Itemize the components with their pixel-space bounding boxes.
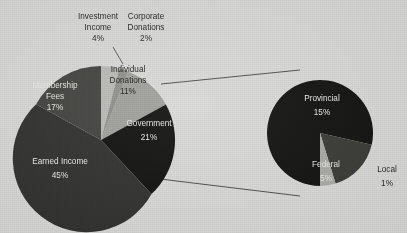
label-local: Local 1% bbox=[377, 165, 397, 188]
label-membership-fees-line1: Membership bbox=[32, 81, 77, 90]
label-corporate-donations-value: 2% bbox=[140, 34, 152, 43]
label-investment-income-line2: Income bbox=[85, 23, 112, 32]
label-local-value: 1% bbox=[381, 179, 393, 188]
label-investment-income: Investment Income 4% bbox=[78, 12, 119, 43]
connector-line-bottom bbox=[160, 179, 300, 196]
main-pie bbox=[13, 66, 175, 232]
label-government-line1: Government bbox=[126, 119, 172, 128]
label-earned-income-value: 45% bbox=[52, 171, 68, 180]
label-individual-donations-line2: Donations bbox=[110, 76, 147, 85]
label-earned-income-line1: Earned Income bbox=[32, 157, 88, 166]
connector-line-top bbox=[161, 70, 300, 84]
chart-canvas: Investment Income 4% Corporate Donations… bbox=[0, 0, 407, 233]
label-corporate-donations-line2: Donations bbox=[128, 23, 165, 32]
label-investment-income-value: 4% bbox=[92, 34, 104, 43]
label-corporate-donations: Corporate Donations 2% bbox=[113, 12, 165, 64]
leader-line-corporate-donations bbox=[113, 47, 123, 64]
label-government-value: 21% bbox=[141, 133, 157, 142]
label-provincial-value: 15% bbox=[314, 108, 330, 117]
label-individual-donations-value: 11% bbox=[120, 87, 136, 96]
label-provincial-line1: Provincial bbox=[304, 94, 340, 103]
label-membership-fees-value: 17% bbox=[47, 103, 63, 112]
label-federal-value: 5% bbox=[320, 174, 332, 183]
label-membership-fees-line2: Fees bbox=[46, 92, 64, 101]
label-local-line1: Local bbox=[377, 165, 397, 174]
label-investment-income-line1: Investment bbox=[78, 12, 119, 21]
pie-chart-figure: Investment Income 4% Corporate Donations… bbox=[0, 0, 407, 233]
label-federal-line1: Federal bbox=[312, 160, 340, 169]
label-individual-donations-line1: Individual bbox=[111, 65, 146, 74]
label-corporate-donations-line1: Corporate bbox=[128, 12, 165, 21]
